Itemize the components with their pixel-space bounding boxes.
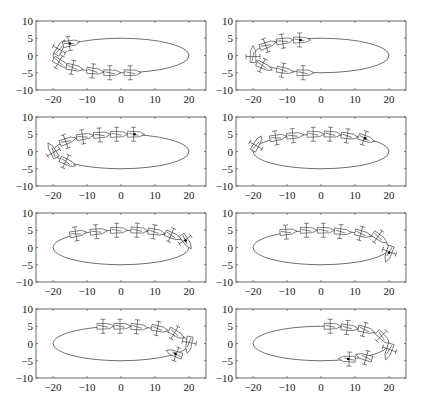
y-tick-label: −5: [221, 163, 233, 175]
y-tick-label: 0: [28, 146, 34, 158]
y-tick-label: −10: [16, 372, 34, 384]
vehicle-glyph: [58, 131, 79, 150]
vehicle-body: [111, 131, 128, 137]
x-tick-label: 10: [150, 93, 162, 105]
x-tick-label: −20: [44, 189, 62, 201]
x-tick-label: −20: [244, 189, 262, 201]
vehicle-body: [324, 323, 341, 329]
x-tick-label: 20: [384, 381, 396, 393]
vehicle-glyph: [276, 33, 295, 49]
vehicle-body: [317, 227, 334, 233]
vehicle-glyph: [76, 128, 95, 144]
vehicle-glyph: [50, 53, 72, 74]
axes-frame: [236, 117, 406, 186]
y-tick-label: −5: [221, 355, 233, 367]
vehicle-glyph: [97, 319, 114, 333]
vehicle-body: [59, 135, 77, 146]
x-tick-label: 0: [318, 93, 324, 105]
vehicle-glyph: [247, 132, 268, 154]
x-tick-label: 20: [184, 93, 196, 105]
x-tick-label: −10: [278, 381, 296, 393]
x-tick-label: 20: [384, 285, 396, 297]
x-tick-label: −10: [78, 285, 96, 297]
axes-frame: [236, 21, 406, 90]
vehicle-body: [165, 348, 183, 359]
axes-frame: [36, 117, 206, 186]
vehicle-glyph: [258, 35, 279, 54]
y-tick-label: 0: [228, 146, 234, 158]
x-tick-label: 0: [118, 381, 124, 393]
x-tick-label: −20: [244, 93, 262, 105]
vehicle-body: [63, 39, 81, 48]
y-tick-label: 10: [22, 207, 34, 219]
x-tick-label: 20: [184, 381, 196, 393]
current-position-marker: [299, 39, 302, 42]
y-tick-label: −5: [221, 259, 233, 271]
x-tick-label: 10: [150, 381, 162, 393]
subplot-3: −20−10010201050−5−10: [16, 111, 206, 201]
vehicle-glyph: [57, 153, 78, 173]
x-tick-label: −10: [78, 93, 96, 105]
vehicle-body: [104, 70, 121, 76]
vehicle-body: [307, 131, 324, 137]
vehicle-glyph: [111, 127, 128, 141]
x-tick-label: −10: [78, 189, 96, 201]
vehicle-body: [66, 63, 84, 72]
vehicle-glyph: [338, 352, 355, 367]
vehicle-glyph: [62, 35, 81, 52]
error-bar: [77, 129, 89, 144]
subplot-2: −20−10010201050−5−10: [216, 15, 406, 105]
y-tick-label: 10: [222, 111, 234, 123]
x-tick-label: 10: [350, 285, 362, 297]
vehicle-glyph: [254, 57, 275, 77]
x-tick-label: 0: [318, 381, 324, 393]
y-tick-label: −5: [21, 163, 33, 175]
vehicle-glyph: [334, 224, 352, 240]
vehicle-glyph: [340, 128, 359, 144]
x-tick-label: 20: [184, 285, 196, 297]
current-position-marker: [69, 42, 72, 45]
x-tick-label: −20: [244, 285, 262, 297]
vehicle-glyph: [294, 33, 311, 47]
vehicle-body: [184, 336, 193, 354]
vehicle-glyph: [131, 223, 149, 238]
vehicle-body: [179, 233, 194, 250]
vehicle-body: [355, 352, 373, 362]
vehicle-body: [294, 37, 311, 43]
subplot-1: −20−10010201050−5−10: [16, 15, 206, 105]
vehicle-glyph: [93, 127, 111, 142]
y-tick-label: 0: [28, 50, 34, 62]
y-tick-label: −5: [21, 355, 33, 367]
x-tick-label: 0: [318, 189, 324, 201]
x-tick-label: 20: [384, 189, 396, 201]
vehicle-body: [131, 227, 148, 234]
vehicle-body: [358, 133, 376, 144]
vehicle-glyph: [379, 244, 398, 265]
y-tick-label: 5: [228, 128, 234, 140]
y-tick-label: 0: [228, 50, 234, 62]
x-tick-label: −20: [44, 285, 62, 297]
subplot-8: −20−10010201050−5−10: [216, 303, 406, 393]
error-bar: [277, 34, 289, 49]
vehicle-glyph: [150, 320, 170, 337]
vehicle-body: [334, 228, 352, 236]
x-tick-label: −20: [44, 381, 62, 393]
vehicle-glyph: [279, 224, 297, 239]
vehicle-body: [128, 131, 145, 137]
y-tick-label: 5: [228, 320, 234, 332]
vehicle-glyph: [324, 127, 342, 142]
vehicle-glyph: [65, 59, 85, 76]
current-position-marker: [184, 239, 187, 242]
vehicle-glyph: [275, 62, 294, 79]
vehicle-body: [297, 70, 314, 76]
y-tick-label: −10: [16, 180, 34, 192]
vehicle-glyph: [130, 319, 148, 334]
y-tick-label: 5: [28, 32, 34, 44]
vehicle-glyph: [104, 66, 121, 80]
vehicle-glyph: [269, 129, 288, 146]
y-tick-label: 5: [228, 224, 234, 236]
error-bar: [70, 226, 82, 242]
y-tick-label: 10: [22, 15, 34, 27]
vehicle-body: [358, 325, 376, 335]
y-tick-label: −5: [221, 67, 233, 79]
